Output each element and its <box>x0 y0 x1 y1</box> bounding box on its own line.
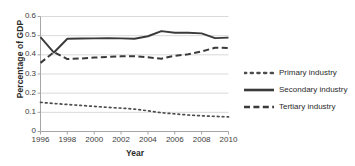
x-tick-label: 2000 <box>79 136 109 144</box>
line-chart: 00.10.20.30.40.50.6 19961998200020022004… <box>0 0 355 166</box>
legend-item[interactable]: Secondary industry <box>244 81 355 98</box>
legend-swatch-solid-icon <box>244 85 274 95</box>
x-tick-label: 1996 <box>26 136 56 144</box>
legend-swatch-dotted-icon <box>244 68 274 78</box>
legend: Primary industrySecondary industryTertia… <box>244 64 355 115</box>
legend-item[interactable]: Tertiary industry <box>244 98 355 115</box>
x-axis-title: Year <box>40 148 230 158</box>
x-tick-label: 1998 <box>52 136 82 144</box>
legend-label: Primary industry <box>279 68 337 77</box>
legend-item[interactable]: Primary industry <box>244 64 355 81</box>
legend-label: Tertiary industry <box>279 102 335 111</box>
x-tick-label: 2010 <box>214 136 244 144</box>
legend-swatch-dashed-icon <box>244 102 274 112</box>
legend-label: Secondary industry <box>279 85 347 94</box>
y-axis-title: Percentage of GDP <box>15 0 25 119</box>
x-tick-label: 2004 <box>133 136 163 144</box>
x-tick-label: 2006 <box>160 136 190 144</box>
x-tick-label: 2008 <box>187 136 217 144</box>
x-tick-label: 2002 <box>106 136 136 144</box>
